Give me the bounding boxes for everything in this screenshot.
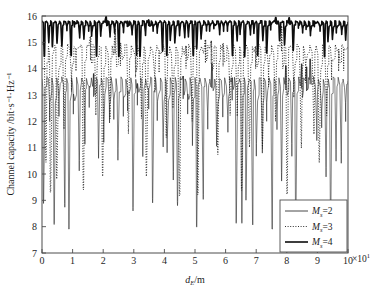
y-tick-label: 13 [27,90,37,101]
x-tick-label: 8 [284,255,289,266]
x-axis-title: dE/m [185,274,205,286]
y-tick-label: 7 [32,248,37,259]
y-axis-title: Channel capacity /bit·s⁻¹·Hz⁻¹ [5,72,16,195]
x-tick-label: 6 [223,255,228,266]
x-tick-label: 9 [315,255,320,266]
x-tick-label: 1 [70,255,75,266]
legend-label-3: Ms=4 [311,237,333,248]
y-tick-label: 8 [32,221,37,232]
y-tick-label: 9 [32,195,37,206]
channel-capacity-chart: 78910111213141516 012345678910 Channel c… [0,0,382,295]
y-tick-label: 11 [27,142,37,153]
y-tick-label: 15 [27,37,37,48]
x-tick-label: 5 [193,255,198,266]
legend-label-1: Ms=2 [311,206,333,217]
y-tick-label: 12 [27,116,37,127]
chart-legend: Ms=2Ms=3Ms=4 [280,200,347,252]
y-tick-label: 10 [27,169,37,180]
x-tick-label: 0 [40,255,45,266]
x-tick-label: 4 [162,255,167,266]
legend-label-2: Ms=3 [311,222,333,233]
y-tick-label: 16 [27,11,37,22]
x-tick-label: 7 [254,255,259,266]
chart-figure: 78910111213141516 012345678910 Channel c… [0,0,382,295]
x-tick-label: 2 [101,255,106,266]
x-tick-label: 3 [131,255,136,266]
y-tick-label: 14 [27,63,37,74]
